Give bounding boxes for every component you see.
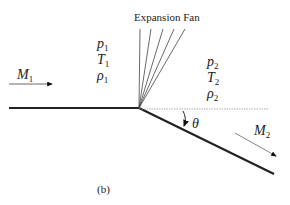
figure-caption: (b) (97, 183, 110, 196)
upstream-mach-label: M1 (16, 67, 33, 84)
angle-label: θ (192, 116, 199, 131)
downstream-mach-label: M2 (253, 123, 270, 140)
svg-text:T1: T1 (97, 52, 109, 69)
svg-text:ρ1: ρ1 (96, 68, 108, 85)
svg-text:p1: p1 (96, 36, 109, 53)
svg-text:p2: p2 (206, 54, 219, 71)
angle-arc (183, 111, 185, 126)
upstream-props: p1 T1 ρ1 (96, 36, 109, 85)
fan-label: Expansion Fan (134, 11, 200, 23)
expansion-fan-lines (139, 29, 185, 108)
svg-text:T2: T2 (207, 70, 219, 87)
expansion-fan-diagram: Expansion Fan p1 T1 ρ1 p2 T2 ρ2 M1 M2 θ … (0, 0, 290, 205)
deflected-wall (139, 108, 274, 174)
svg-text:ρ2: ρ2 (206, 86, 218, 103)
downstream-props: p2 T2 ρ2 (206, 54, 219, 103)
